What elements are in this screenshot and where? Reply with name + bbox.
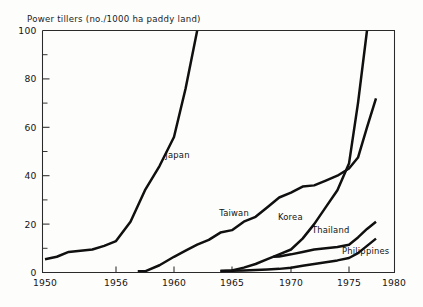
series-label-taiwan: Taiwan (218, 208, 249, 218)
series-label-japan: Japan (164, 150, 189, 160)
x-tick-label-1956: 1956 (104, 277, 128, 288)
y-tick-label-80: 80 (24, 73, 36, 84)
y-axis-minor-ticks (43, 55, 48, 249)
y-axis-tick-labels: 020406080100 (18, 25, 36, 278)
chart-title: Power tillers (no./1000 ha paddy land) (27, 14, 201, 24)
y-tick-label-20: 20 (24, 219, 36, 230)
series-label-philippines: Philippines (342, 246, 389, 256)
series-curves (45, 31, 376, 272)
x-tick-label-1980: 1980 (382, 277, 406, 288)
chart-figure: Power tillers (no./1000 ha paddy land) 0… (0, 0, 423, 307)
line-chart: Power tillers (no./1000 ha paddy land) 0… (0, 0, 423, 307)
y-tick-label-60: 60 (24, 122, 36, 133)
x-tick-label-1960: 1960 (162, 277, 186, 288)
series-line-korea (220, 31, 367, 272)
x-axis-tick-labels: 1950195619601965197019751980 (33, 277, 406, 288)
y-tick-label-100: 100 (18, 25, 36, 36)
x-tick-label-1975: 1975 (337, 277, 361, 288)
plot-frame (43, 31, 395, 273)
x-tick-label-1950: 1950 (33, 277, 57, 288)
x-tick-label-1970: 1970 (279, 277, 303, 288)
series-label-thailand: Thailand (311, 225, 350, 235)
series-label-korea: Korea (278, 212, 303, 222)
series-line-japan (45, 31, 197, 260)
x-tick-label-1965: 1965 (220, 277, 244, 288)
y-tick-label-40: 40 (24, 170, 36, 181)
